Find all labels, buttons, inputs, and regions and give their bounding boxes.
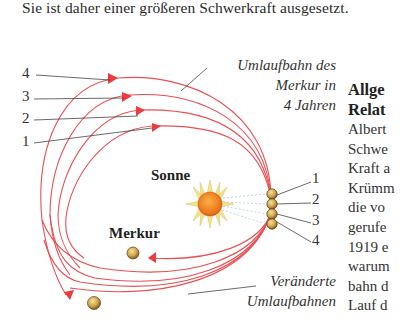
label-changed-orbits: Veränderte Umlaufbahnen <box>222 271 336 311</box>
orbit-number-right-3: 3 <box>312 212 320 229</box>
label-line: Veränderte <box>222 271 336 291</box>
side-text-line: gerufe <box>348 218 415 238</box>
orbit-number-right-4: 4 <box>312 232 320 249</box>
orbit-number-right-2: 2 <box>312 191 320 208</box>
label-mercury: Merkur <box>109 225 160 242</box>
side-text-line: 1919 e <box>348 238 415 258</box>
label-orbit-4-years: Umlaufbahn des Merkur in 4 Jahren <box>210 55 336 115</box>
side-text-line: bahn d <box>348 277 415 297</box>
label-sun: Sonne <box>151 167 190 184</box>
sun-icon <box>186 180 234 228</box>
label-line: 4 Jahren <box>210 95 336 115</box>
label-line: Umlaufbahnen <box>222 291 336 311</box>
orbit-number-left-2: 2 <box>22 110 30 127</box>
side-text-line: Krümm <box>348 179 415 199</box>
side-text-line: Lauf d <box>348 296 415 316</box>
side-heading: Allge <box>348 80 415 100</box>
side-text-column: Allge Relat Albert Schwe Kraft a Krümm d… <box>348 80 415 316</box>
side-text-line: Albert <box>348 120 415 140</box>
orbit-number-left-1: 1 <box>22 133 30 150</box>
label-line: Umlaufbahn des <box>210 55 336 75</box>
side-heading: Relat <box>348 100 415 120</box>
mercury-positions <box>267 189 277 229</box>
orbit-number-right-1: 1 <box>312 170 320 187</box>
side-text-line: die vo <box>348 198 415 218</box>
orbit-number-left-4: 4 <box>22 65 30 82</box>
side-text-line: Schwe <box>348 140 415 160</box>
side-text-line: warum <box>348 257 415 277</box>
label-line: Merkur in <box>210 75 336 95</box>
orbit-number-left-3: 3 <box>22 88 30 105</box>
side-text-line: Kraft a <box>348 159 415 179</box>
